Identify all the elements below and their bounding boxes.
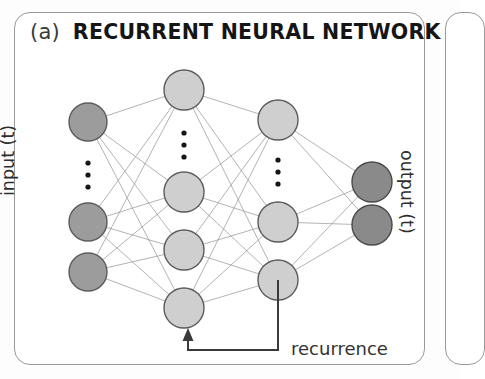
ellipsis-dot — [85, 160, 90, 165]
network-node-hidden-1 — [164, 172, 204, 212]
network-node-hidden-1 — [164, 70, 204, 110]
ellipsis-dot — [85, 172, 90, 177]
ellipsis-dot — [181, 142, 186, 147]
network-node-hidden-1 — [164, 288, 204, 328]
network-node-output — [352, 205, 392, 245]
network-node-output — [352, 162, 392, 202]
ellipsis-dot — [181, 154, 186, 159]
ellipsis-dot — [275, 169, 280, 174]
network-nodes — [69, 70, 392, 328]
ellipsis-dot — [181, 130, 186, 135]
recurrence-label: recurrence — [291, 338, 388, 359]
network-edges — [88, 90, 372, 308]
network-node-hidden-2 — [258, 100, 298, 140]
ellipsis-dot — [275, 181, 280, 186]
network-node-input — [69, 103, 107, 141]
network-node-input — [69, 203, 107, 241]
network-node-hidden-1 — [164, 230, 204, 270]
network-node-input — [69, 253, 107, 291]
recurrence-arrowhead — [183, 328, 194, 341]
ellipsis-dot — [85, 184, 90, 189]
ellipsis-dot — [275, 157, 280, 162]
network-node-hidden-2 — [258, 202, 298, 242]
